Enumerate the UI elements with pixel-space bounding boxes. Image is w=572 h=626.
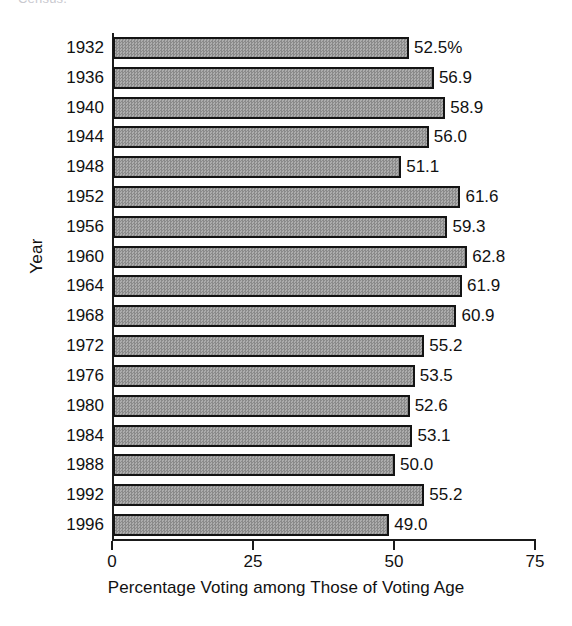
bar-value-label: 52.5% — [414, 38, 462, 58]
bar-row: 197653.5 — [0, 361, 572, 391]
bar[interactable] — [113, 425, 412, 447]
x-axis-tick-label: 25 — [244, 552, 263, 572]
bar[interactable] — [113, 275, 462, 297]
bar-row: 196062.8 — [0, 242, 572, 272]
year-axis-label: 1940 — [44, 98, 104, 118]
bar-row: 194058.9 — [0, 93, 572, 123]
bar[interactable] — [113, 454, 395, 476]
bar-value-label: 55.2 — [429, 485, 462, 505]
bar[interactable] — [113, 246, 467, 268]
bar[interactable] — [113, 365, 415, 387]
bar-value-label: 53.1 — [417, 426, 450, 446]
year-axis-label: 1980 — [44, 396, 104, 416]
bar[interactable] — [113, 335, 424, 357]
bar-row: 195659.3 — [0, 212, 572, 242]
bar[interactable] — [113, 156, 401, 178]
year-axis-label: 1944 — [44, 127, 104, 147]
year-axis-label: 1936 — [44, 68, 104, 88]
bar[interactable] — [113, 126, 429, 148]
x-axis-tick — [534, 541, 536, 550]
year-axis-label: 1964 — [44, 276, 104, 296]
bar-value-label: 55.2 — [429, 336, 462, 356]
bar[interactable] — [113, 186, 460, 208]
x-axis-tick-label: 75 — [526, 552, 545, 572]
year-axis-label: 1956 — [44, 217, 104, 237]
bar-row: 198052.6 — [0, 391, 572, 421]
bar-value-label: 58.9 — [450, 98, 483, 118]
year-axis-label: 1996 — [44, 515, 104, 535]
bar-value-label: 56.0 — [434, 127, 467, 147]
year-axis-label: 1968 — [44, 306, 104, 326]
year-axis-label: 1992 — [44, 485, 104, 505]
bar-value-label: 53.5 — [420, 366, 453, 386]
year-axis-label: 1972 — [44, 336, 104, 356]
bar[interactable] — [113, 484, 424, 506]
bar[interactable] — [113, 97, 445, 119]
bar-row: 199649.0 — [0, 510, 572, 540]
bar-row: 197255.2 — [0, 331, 572, 361]
bar-value-label: 52.6 — [415, 396, 448, 416]
year-axis-label: 1952 — [44, 187, 104, 207]
bar-row: 199255.2 — [0, 480, 572, 510]
year-axis-label: 1932 — [44, 38, 104, 58]
bar-chart: Census. Year 0255075 193252.5%193656.919… — [0, 0, 572, 626]
x-axis-tick — [393, 541, 395, 550]
year-axis-label: 1984 — [44, 426, 104, 446]
bar-rows: 193252.5%193656.9194058.9194456.0194851.… — [0, 33, 572, 540]
x-axis-tick — [252, 541, 254, 550]
bar-row: 198850.0 — [0, 451, 572, 481]
bar-value-label: 59.3 — [452, 217, 485, 237]
bar-row: 194456.0 — [0, 122, 572, 152]
x-axis-tick-label: 50 — [385, 552, 404, 572]
bar-value-label: 61.9 — [467, 276, 500, 296]
bar-row: 196860.9 — [0, 301, 572, 331]
bar-value-label: 49.0 — [394, 515, 427, 535]
bar-row: 198453.1 — [0, 421, 572, 451]
bar-row: 196461.9 — [0, 272, 572, 302]
year-axis-label: 1960 — [44, 247, 104, 267]
bar[interactable] — [113, 216, 447, 238]
bar-row: 195261.6 — [0, 182, 572, 212]
x-axis-tick-label: 0 — [107, 552, 116, 572]
bar[interactable] — [113, 67, 434, 89]
year-axis-label: 1976 — [44, 366, 104, 386]
bar-value-label: 50.0 — [400, 455, 433, 475]
bar[interactable] — [113, 395, 410, 417]
cut-off-caption-text: Census. — [18, 0, 67, 6]
bar-row: 194851.1 — [0, 152, 572, 182]
bar-value-label: 61.6 — [465, 187, 498, 207]
bar-value-label: 56.9 — [439, 68, 472, 88]
bar-value-label: 51.1 — [406, 157, 439, 177]
bar[interactable] — [113, 514, 389, 536]
x-axis-title: Percentage Voting among Those of Voting … — [0, 578, 572, 598]
bar-value-label: 62.8 — [472, 247, 505, 267]
bar-row: 193252.5% — [0, 33, 572, 63]
bar-value-label: 60.9 — [461, 306, 494, 326]
x-axis-tick — [111, 541, 113, 550]
bar[interactable] — [113, 37, 409, 59]
bar[interactable] — [113, 305, 456, 327]
year-axis-label: 1948 — [44, 157, 104, 177]
year-axis-label: 1988 — [44, 455, 104, 475]
bar-row: 193656.9 — [0, 63, 572, 93]
